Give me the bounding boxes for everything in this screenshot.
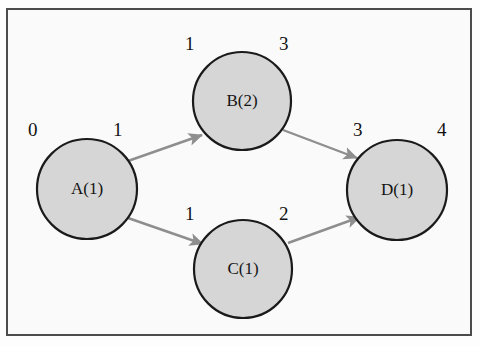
node-a-right-number: 1 <box>113 120 123 139</box>
node-c-right-number: 2 <box>279 204 289 223</box>
diagram-canvas: A(1) B(2) C(1) D(1) 0 1 1 3 1 2 3 4 <box>0 0 480 346</box>
edge-b-to-d <box>283 130 357 158</box>
node-c[interactable]: C(1) <box>194 220 292 318</box>
node-a[interactable]: A(1) <box>37 139 137 239</box>
node-b-right-number: 3 <box>279 34 289 53</box>
node-c-label: C(1) <box>227 259 258 278</box>
node-d-label: D(1) <box>381 180 413 199</box>
node-d-left-number: 3 <box>353 120 363 139</box>
edge-a-to-b <box>128 135 202 161</box>
node-b[interactable]: B(2) <box>193 52 291 150</box>
node-b-label: B(2) <box>226 91 257 110</box>
node-d-right-number: 4 <box>437 120 447 139</box>
node-a-left-number: 0 <box>28 120 38 139</box>
node-c-left-number: 1 <box>185 204 195 223</box>
graph-svg: A(1) B(2) C(1) D(1) <box>0 0 480 346</box>
node-b-left-number: 1 <box>185 34 195 53</box>
node-a-label: A(1) <box>71 179 103 198</box>
edge-c-to-d <box>288 217 360 243</box>
node-d[interactable]: D(1) <box>347 140 447 240</box>
